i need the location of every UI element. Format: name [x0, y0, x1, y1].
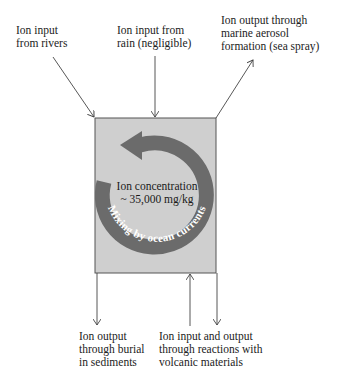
rivers-label-line: Ion input — [16, 24, 67, 37]
sediments-label-line: through burial — [79, 343, 144, 356]
aerosol-label-line: marine aerosol — [221, 27, 319, 40]
volcanic-label-line: volcanic materials — [159, 356, 262, 369]
rain-label: Ion input from rain (negligible) — [117, 24, 191, 50]
concentration-label: Ion concentration — [97, 180, 217, 193]
river-input-arrow — [53, 57, 94, 117]
sediments-label-line: in sediments — [79, 356, 144, 369]
rivers-label-line: from rivers — [16, 37, 67, 50]
concentration-text: Ion concentration ~ 35,000 mg/kg — [97, 180, 217, 206]
rain-label-line: Ion input from — [117, 24, 191, 37]
aerosol-label-line: Ion output through — [221, 14, 319, 27]
sediments-label: Ion output through burial in sediments — [79, 330, 144, 369]
rivers-label: Ion input from rivers — [16, 24, 67, 50]
sediments-label-line: Ion output — [79, 330, 144, 343]
volcanic-label: Ion input and output through reactions w… — [159, 330, 262, 369]
aerosol-label-line: formation (sea spray) — [221, 40, 319, 53]
concentration-value: ~ 35,000 mg/kg — [97, 193, 217, 206]
aerosol-output-arrow — [216, 60, 253, 118]
aerosol-label: Ion output through marine aerosol format… — [221, 14, 319, 53]
volcanic-label-line: Ion input and output — [159, 330, 262, 343]
volcanic-label-line: through reactions with — [159, 343, 262, 356]
rain-label-line: rain (negligible) — [117, 37, 191, 50]
